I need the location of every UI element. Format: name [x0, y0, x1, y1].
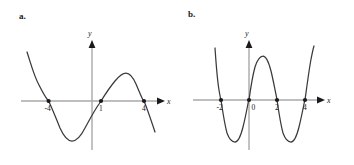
panel-b-x-axis-arrowhead: [317, 97, 325, 104]
panel-a-tick-label-4: 4: [142, 104, 146, 113]
panel-b-root-dot-2: [275, 98, 279, 102]
panel-a-x-axis-arrowhead: [157, 98, 165, 105]
panel-b-tick-label-neg2: -2: [217, 103, 223, 112]
figure-panel-b: b. -2 0 2 4 x y: [177, 0, 354, 165]
panel-a-y-axis-label: y: [87, 29, 92, 38]
panel-a-root-dot-1: [99, 99, 103, 103]
panel-a-tick-label-neg4: -4: [45, 104, 51, 113]
panel-b-root-dot-4: [303, 98, 307, 102]
panel-b-root-dot-neg2: [219, 98, 223, 102]
panel-b-x-axis-label: x: [326, 96, 331, 105]
panel-b-y-axis-arrowhead: [246, 40, 253, 48]
panel-a-root-dot-neg4: [47, 99, 51, 103]
panel-a-root-dot-4: [142, 99, 146, 103]
panel-a-y-axis-arrowhead: [89, 40, 96, 48]
panel-b-tick-label-2: 2: [275, 103, 279, 112]
figure-panel-a: a. -4 1 4 x y: [0, 0, 177, 165]
panel-a-plot: -4 1 4 x y: [0, 0, 177, 165]
panel-b-tick-label-4: 4: [303, 103, 307, 112]
panel-b-root-dot-0: [247, 98, 251, 102]
panel-b-tick-label-0: 0: [252, 103, 256, 112]
panel-a-curve: [27, 52, 155, 141]
panel-b-plot: -2 0 2 4 x y: [177, 0, 354, 165]
panel-a-x-axis-label: x: [166, 97, 171, 106]
panel-b-y-axis-label: y: [244, 29, 249, 38]
panel-b-curve: [215, 46, 314, 142]
panel-a-tick-label-1: 1: [99, 104, 103, 113]
